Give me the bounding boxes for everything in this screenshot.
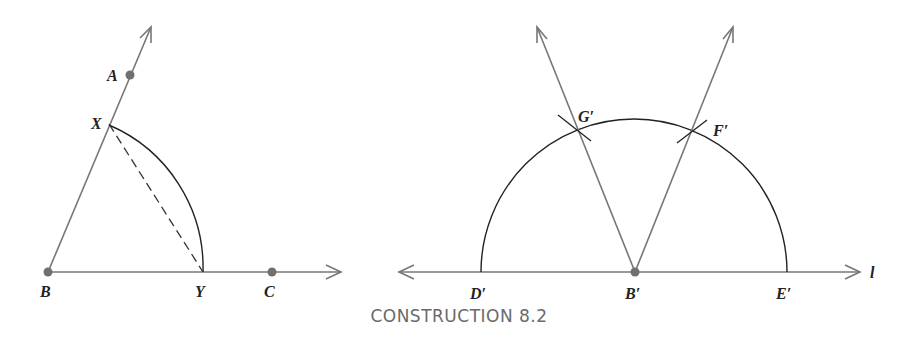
left-figure: A X B Y C	[39, 27, 341, 300]
point-b-prime	[631, 268, 640, 277]
label-d-prime: D′	[469, 285, 486, 302]
dashed-segment-xy	[109, 124, 203, 272]
ray-ba	[48, 27, 151, 272]
point-c	[268, 268, 277, 277]
label-c: C	[264, 283, 275, 300]
label-x: X	[90, 115, 102, 132]
ray-b-f	[635, 27, 733, 272]
arc-mark-f	[677, 120, 707, 143]
construction-diagram: A X B Y C G′ F′ D′ B′ E′ l	[0, 0, 918, 347]
label-b-prime: B′	[624, 285, 640, 302]
label-a: A	[106, 67, 118, 84]
label-g-prime: G′	[578, 108, 594, 125]
label-line-l: l	[870, 264, 875, 281]
ray-b-g	[537, 27, 635, 272]
point-b	[44, 268, 53, 277]
figure-caption: CONSTRUCTION 8.2	[0, 306, 918, 326]
label-e-prime: E′	[775, 285, 791, 302]
label-b: B	[39, 283, 51, 300]
label-y: Y	[195, 283, 206, 300]
right-figure: G′ F′ D′ B′ E′ l	[399, 27, 875, 302]
semicircle-arc	[481, 119, 787, 272]
label-f-prime: F′	[712, 122, 728, 139]
point-a	[126, 71, 135, 80]
